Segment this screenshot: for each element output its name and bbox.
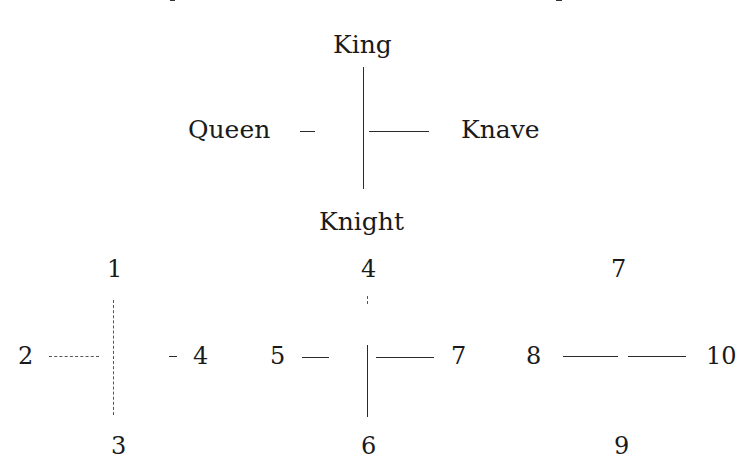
label-right: 4 (193, 344, 208, 368)
label-right: 7 (451, 344, 466, 368)
cross-left-line (49, 356, 99, 357)
clipped-text-fragment (556, 0, 562, 1)
label-top: 1 (107, 257, 122, 281)
cross-vertical-line (113, 300, 114, 415)
label-knight: Knight (319, 209, 404, 234)
label-knave: Knave (461, 117, 540, 142)
label-left: 2 (18, 344, 33, 368)
clipped-text-fragment (170, 0, 175, 1)
label-right: 10 (706, 344, 737, 368)
label-top: 7 (611, 257, 626, 281)
label-bottom: 9 (614, 434, 629, 458)
label-king: King (333, 32, 392, 57)
label-left: 8 (526, 344, 541, 368)
cross-left-line (302, 357, 329, 358)
cross-left-line (563, 356, 618, 357)
cross-vertical-stub (367, 296, 368, 304)
label-queen: Queen (188, 117, 270, 142)
label-top: 4 (361, 257, 376, 281)
cross-right-line (628, 356, 686, 357)
cross-right-stub (169, 356, 177, 357)
cross-vertical-line (367, 345, 368, 417)
cross-right-line (376, 357, 434, 358)
cross-left-stub (300, 131, 315, 132)
cross-right-line (369, 131, 429, 132)
label-bottom: 6 (361, 434, 376, 458)
label-left: 5 (270, 344, 285, 368)
label-bottom: 3 (111, 434, 126, 458)
cross-vertical-line (363, 67, 364, 189)
